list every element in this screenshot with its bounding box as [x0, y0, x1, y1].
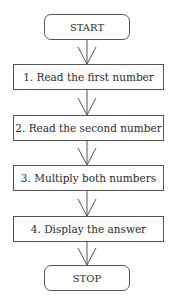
stop-label: STOP — [73, 273, 101, 284]
step-3-process: 3. Multiply both numbers — [13, 165, 164, 191]
step-3-label: 3. Multiply both numbers — [21, 172, 156, 184]
step-4-process: 4. Display the answer — [13, 216, 164, 242]
step-4-label: 4. Display the answer — [31, 223, 146, 235]
step-1-process: 1. Read the first number — [13, 64, 164, 90]
start-label: START — [70, 22, 104, 33]
step-2-process: 2. Read the second number — [13, 115, 164, 141]
flow-arrows — [0, 0, 178, 307]
stop-terminal: STOP — [44, 265, 130, 291]
start-terminal: START — [44, 14, 130, 40]
step-2-label: 2. Read the second number — [15, 122, 161, 134]
step-1-label: 1. Read the first number — [23, 71, 154, 83]
